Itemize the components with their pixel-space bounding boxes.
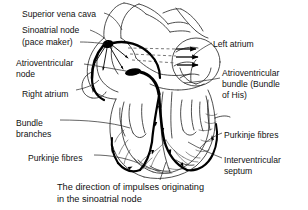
leader-av-bundle [184, 78, 220, 83]
right-bundle-branch [152, 96, 159, 142]
label-purkinje-fibres-left: Purkinje fibres [28, 153, 82, 163]
label-atrioventricular-node-line2: node [16, 69, 35, 79]
leader-superior-vena-cava [104, 13, 122, 30]
label-superior-vena-cava: Superior vena cava [22, 9, 96, 19]
leader-atrioventricular-node [84, 64, 126, 71]
leader-right-atrium [76, 80, 99, 90]
label-interventricular-septum-line2: septum [224, 166, 252, 176]
label-av-bundle-line2: bundle (Bundle [222, 79, 280, 89]
left-atrium-impulse-arrows [176, 49, 198, 65]
label-interventricular-septum-line1: Interventricular [224, 155, 281, 165]
leader-pace-maker [80, 42, 105, 44]
left-bundle-branch [159, 94, 164, 140]
label-right-atrium: Right atrium [22, 89, 68, 99]
label-atrioventricular-node-line1: Atrioventricular [16, 58, 73, 68]
label-av-bundle-line1: Atrioventricular [222, 68, 279, 78]
aorta-outline [146, 14, 170, 32]
label-av-bundle-line3: of His) [222, 90, 247, 100]
caption-line2: in the sinoatrial node [57, 194, 142, 206]
leader-bundle-branches [60, 120, 130, 128]
label-pace-maker: (pace maker) [22, 37, 73, 47]
figure-canvas: Superior vena cava Sinoatrial node (pace… [0, 0, 308, 210]
label-sinoatrial-node: Sinoatrial node [22, 25, 79, 35]
label-bundle-branches-line1: Bundle [16, 118, 43, 128]
leader-left-atrium [191, 43, 212, 58]
caption-line1: The direction of impulses originating [57, 182, 204, 194]
leader-sinoatrial-node [90, 30, 108, 42]
label-left-atrium: Left atrium [213, 39, 254, 49]
bundle-of-his [140, 72, 159, 94]
label-purkinje-fibres-right: Purkinje fibres [224, 130, 278, 140]
ventricles-outline [110, 99, 144, 177]
label-bundle-branches-line2: branches [16, 129, 51, 139]
leader-purkinje-fibres-right [200, 133, 222, 148]
